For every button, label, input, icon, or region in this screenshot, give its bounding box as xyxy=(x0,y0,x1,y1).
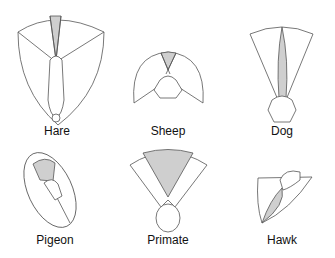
sheep-visual-field xyxy=(134,52,204,103)
label-primate: Primate xyxy=(147,233,188,247)
pigeon-visual-field xyxy=(13,144,87,235)
dog-visual-field xyxy=(250,27,313,122)
label-sheep: Sheep xyxy=(151,124,186,138)
label-dog: Dog xyxy=(271,124,293,138)
label-hawk: Hawk xyxy=(267,233,297,247)
primate-visual-field xyxy=(130,150,207,233)
label-pigeon: Pigeon xyxy=(36,233,73,247)
label-hare: Hare xyxy=(44,124,70,138)
hawk-visual-field xyxy=(258,171,313,223)
hare-visual-field xyxy=(18,16,104,125)
